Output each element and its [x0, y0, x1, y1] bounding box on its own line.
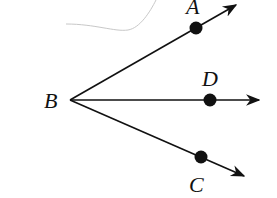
pencil-smudge — [66, 0, 156, 30]
point-c-dot — [195, 151, 208, 164]
point-a-dot — [190, 22, 203, 35]
point-label-a: A — [184, 0, 200, 19]
point-d-dot — [204, 94, 217, 107]
angle-diagram: B A D C — [0, 0, 277, 198]
point-label-c: C — [189, 172, 204, 197]
point-label-d: D — [201, 66, 218, 91]
ray-BC — [70, 100, 244, 176]
vertex-label-b: B — [44, 88, 57, 113]
